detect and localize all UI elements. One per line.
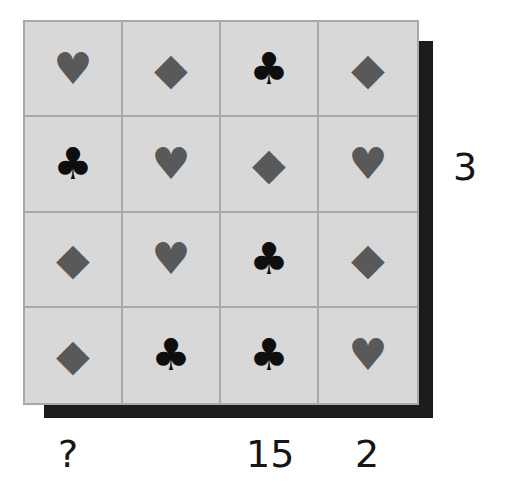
diamond-icon: ◆ xyxy=(252,142,286,186)
grid-cell: ◆ xyxy=(319,22,417,117)
diamond-icon: ◆ xyxy=(56,333,90,377)
club-icon: ♣ xyxy=(151,333,190,377)
grid-cell: ♣ xyxy=(25,117,123,212)
grid-cell: ◆ xyxy=(221,117,319,212)
grid-cell: ♣ xyxy=(221,22,319,117)
heart-icon: ♥ xyxy=(348,142,387,186)
heart-icon: ♥ xyxy=(151,237,190,281)
diamond-icon: ◆ xyxy=(351,237,385,281)
heart-icon: ♥ xyxy=(151,142,190,186)
grid-cell: ♣ xyxy=(123,308,221,403)
grid-cell: ♥ xyxy=(319,308,417,403)
grid-cell: ◆ xyxy=(123,22,221,117)
grid-cell: ◆ xyxy=(25,308,123,403)
diamond-icon: ◆ xyxy=(351,47,385,91)
club-icon: ♣ xyxy=(249,47,288,91)
club-icon: ♣ xyxy=(53,142,92,186)
grid-cell: ♥ xyxy=(123,213,221,308)
diamond-icon: ◆ xyxy=(56,237,90,281)
column-1-total: ? xyxy=(58,432,78,476)
grid-cell: ◆ xyxy=(319,213,417,308)
grid-cell: ♣ xyxy=(221,308,319,403)
column-4-total: 2 xyxy=(355,432,379,476)
symbol-grid: ♥ ◆ ♣ ◆ ♣ ♥ ◆ ♥ ◆ ♥ ♣ ◆ ◆ ♣ ♣ ♥ xyxy=(23,20,419,405)
heart-icon: ♥ xyxy=(53,47,92,91)
column-3-total: 15 xyxy=(246,432,294,476)
grid-cell: ◆ xyxy=(25,213,123,308)
grid-cell: ♥ xyxy=(123,117,221,212)
club-icon: ♣ xyxy=(249,237,288,281)
row-2-total: 3 xyxy=(453,145,477,189)
grid-cell: ♥ xyxy=(319,117,417,212)
club-icon: ♣ xyxy=(249,333,288,377)
heart-icon: ♥ xyxy=(348,333,387,377)
grid-cell: ♣ xyxy=(221,213,319,308)
grid-cell: ♥ xyxy=(25,22,123,117)
diamond-icon: ◆ xyxy=(154,47,188,91)
